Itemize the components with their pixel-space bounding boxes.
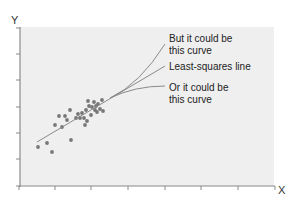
data-point [84, 108, 88, 112]
upper-curve-label-line1: But it could be [169, 33, 233, 44]
plot-panel [20, 27, 274, 186]
data-point [57, 114, 61, 118]
data-point [92, 100, 96, 104]
scatter-regression-diagram: Y X But it could be this curve Least-squ… [0, 0, 294, 202]
upper-curve-label-line2: this curve [169, 45, 212, 56]
x-axis-label: X [278, 184, 286, 196]
data-point [68, 108, 72, 112]
data-point [95, 110, 99, 114]
data-point [85, 119, 89, 123]
data-point [53, 123, 57, 127]
least-squares-label: Least-squares line [169, 61, 251, 72]
data-point [83, 123, 87, 127]
y-axis-label: Y [11, 14, 19, 26]
lower-curve-label-line2: this curve [169, 94, 212, 105]
data-point [82, 116, 86, 120]
data-point [63, 114, 67, 118]
data-point [65, 118, 69, 122]
data-point [50, 150, 54, 154]
data-point [89, 113, 93, 117]
data-point [36, 145, 40, 149]
x-axis-ticks [19, 186, 275, 190]
data-point [101, 109, 105, 113]
data-point [76, 112, 80, 116]
data-point [69, 138, 73, 142]
lower-curve-label-line1: Or it could be [169, 82, 229, 93]
data-point [45, 141, 49, 145]
data-point [86, 99, 90, 103]
data-point [100, 98, 104, 102]
